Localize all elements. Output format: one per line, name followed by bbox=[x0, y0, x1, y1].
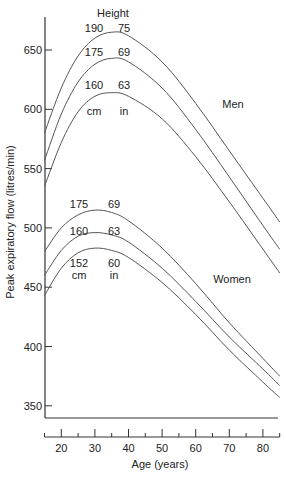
group-label-men: Men bbox=[222, 98, 243, 110]
height-header: Height bbox=[97, 7, 129, 19]
height-in-label: 69 bbox=[118, 46, 130, 58]
x-tick-label: 40 bbox=[122, 442, 134, 454]
unit-cm-men: cm bbox=[87, 105, 102, 117]
curve-women-160cm bbox=[45, 233, 280, 386]
x-tick-label: 70 bbox=[223, 442, 235, 454]
x-tick-label: 30 bbox=[89, 442, 101, 454]
y-tick-label: 550 bbox=[24, 163, 42, 175]
y-tick-label: 400 bbox=[24, 341, 42, 353]
height-in-label: 69 bbox=[108, 198, 120, 210]
height-cm-label: 160 bbox=[70, 225, 88, 237]
x-tick-label: 20 bbox=[55, 442, 67, 454]
y-tick-label: 600 bbox=[24, 103, 42, 115]
y-tick-label: 650 bbox=[24, 44, 42, 56]
height-in-label: 63 bbox=[108, 225, 120, 237]
curve-men-175cm bbox=[45, 58, 280, 249]
peak-flow-chart: 35040045050055060065020304050607080 Age … bbox=[0, 0, 286, 478]
height-cm-label: 175 bbox=[85, 46, 103, 58]
group-label-women: Women bbox=[213, 273, 251, 285]
unit-cm-women: cm bbox=[72, 269, 87, 281]
height-in-label: 75 bbox=[118, 22, 130, 34]
unit-in-women: in bbox=[110, 269, 119, 281]
height-in-label: 60 bbox=[108, 257, 120, 269]
y-tick-label: 450 bbox=[24, 281, 42, 293]
height-in-label: 63 bbox=[118, 79, 130, 91]
height-cm-label: 190 bbox=[85, 22, 103, 34]
x-tick-label: 60 bbox=[190, 442, 202, 454]
y-tick-label: 500 bbox=[24, 222, 42, 234]
height-cm-label: 175 bbox=[70, 198, 88, 210]
x-tick-label: 50 bbox=[156, 442, 168, 454]
axes: 35040045050055060065020304050607080 bbox=[24, 17, 280, 454]
curve-men-160cm bbox=[45, 93, 280, 273]
height-cm-label: 160 bbox=[85, 79, 103, 91]
unit-in-men: in bbox=[120, 105, 129, 117]
y-tick-label: 350 bbox=[24, 400, 42, 412]
curve-men-190cm bbox=[45, 32, 280, 222]
x-tick-label: 80 bbox=[257, 442, 269, 454]
curves bbox=[45, 32, 280, 398]
x-axis-title: Age (years) bbox=[132, 458, 189, 470]
height-cm-label: 152 bbox=[70, 257, 88, 269]
y-axis-title: Peak expiratory flow (litres/min) bbox=[4, 145, 16, 298]
